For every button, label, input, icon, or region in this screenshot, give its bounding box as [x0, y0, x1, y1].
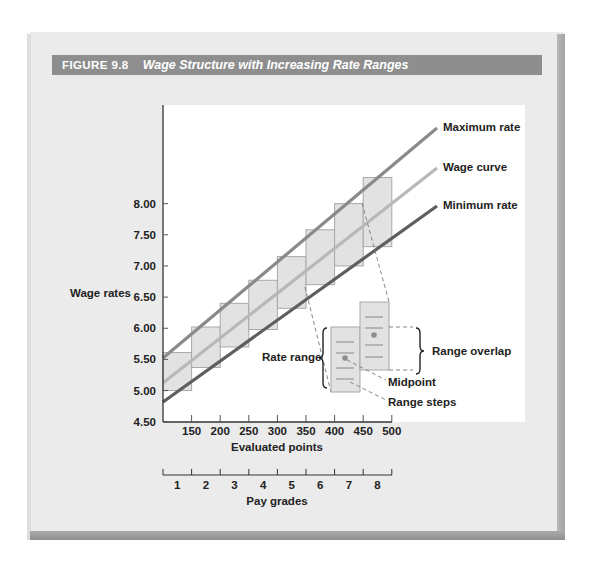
- y-tick-label: 6.00: [134, 322, 156, 334]
- y-tick-label: 5.00: [134, 385, 156, 397]
- midpoint-dot-1: [342, 355, 348, 361]
- pay-grade-ticks: 12345678: [163, 469, 392, 491]
- inset-rate-range-box-1: [331, 327, 360, 392]
- pay-grade-label: 3: [231, 479, 237, 491]
- y-axis-label: Wage rates: [70, 287, 131, 299]
- rate-range-box-grade-7: [335, 204, 364, 266]
- range-steps-label: Range steps: [388, 396, 456, 408]
- midpoint-label: Midpoint: [388, 376, 436, 388]
- x-tick-label: 450: [354, 425, 373, 437]
- range-overlap-label: Range overlap: [432, 345, 511, 357]
- maximum-rate-label: Maximum rate: [443, 121, 520, 133]
- x-tick-label: 350: [296, 425, 315, 437]
- wage-structure-chart: 4.505.005.506.006.507.007.508.00 1502002…: [0, 0, 593, 569]
- pay-grades-label: Pay grades: [246, 495, 307, 507]
- x-tick-label: 400: [325, 425, 344, 437]
- minimum-rate-label: Minimum rate: [443, 199, 518, 211]
- x-tick-label: 200: [211, 425, 230, 437]
- rate-range-box-grade-6: [306, 230, 335, 285]
- x-tick-label: 500: [382, 425, 401, 437]
- pay-grade-label: 8: [374, 479, 381, 491]
- pay-grade-label: 1: [174, 479, 181, 491]
- rate-range-box-grade-2: [192, 327, 221, 367]
- x-tick-label: 300: [268, 425, 287, 437]
- wage-curve-label: Wage curve: [443, 161, 507, 173]
- pay-grade-label: 7: [346, 479, 352, 491]
- y-tick-label: 4.50: [134, 416, 156, 428]
- midpoint-dot-2: [371, 332, 377, 338]
- y-tick-label: 6.50: [134, 291, 156, 303]
- y-tick-label: 5.50: [134, 353, 156, 365]
- pay-grade-label: 2: [203, 479, 209, 491]
- pay-grade-label: 5: [288, 479, 295, 491]
- y-tick-label: 7.50: [134, 229, 156, 241]
- x-tick-label: 250: [239, 425, 258, 437]
- x-tick-label: 150: [182, 425, 201, 437]
- x-axis-label: Evaluated points: [231, 441, 323, 453]
- rate-range-label: Rate range: [262, 351, 321, 363]
- y-tick-label: 8.00: [134, 198, 156, 210]
- pay-grade-label: 6: [317, 479, 323, 491]
- pay-grade-label: 4: [260, 479, 267, 491]
- inset-rate-range-box-2: [360, 302, 389, 370]
- y-tick-label: 7.00: [134, 260, 156, 272]
